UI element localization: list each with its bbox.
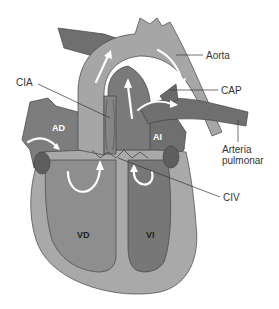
label-arteria-pulmonar-1: Arteria [222, 144, 252, 155]
mitral-valve-right [163, 146, 179, 168]
label-cia: CIA [16, 77, 33, 88]
label-cap: CAP [221, 85, 242, 96]
label-civ: CIV [223, 192, 240, 203]
heart-diagram: Aorta CAP CIA Arteria pulmonar CIV AD AI… [0, 0, 279, 309]
label-arteria-pulmonar-2: pulmonar [222, 155, 264, 166]
label-aorta: Aorta [206, 50, 230, 61]
tricuspid-valve-left [34, 152, 50, 174]
label-ad: AD [52, 123, 65, 133]
atrial-septum [104, 96, 116, 154]
label-vd: VD [77, 230, 90, 240]
label-vi: VI [146, 230, 155, 240]
flow-arrow-aorta-down-head [178, 78, 186, 88]
label-ai: AI [153, 132, 162, 142]
